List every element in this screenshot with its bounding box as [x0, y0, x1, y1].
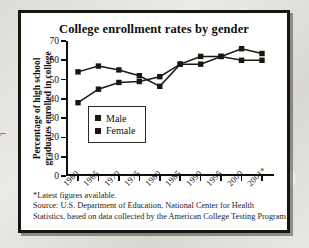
data-point-female [239, 46, 244, 51]
data-point-female [116, 67, 121, 72]
legend-item-male: Male [95, 113, 135, 124]
square-marker-icon [95, 115, 101, 121]
data-point-female [96, 63, 101, 68]
plot-area: 010203040506070 196019651970197519801985… [66, 41, 274, 176]
y-tick-label: 30 [50, 113, 60, 123]
data-point-female [157, 84, 162, 89]
series-line-male [78, 56, 262, 102]
y-tick-label: 0 [54, 171, 59, 181]
data-point-male [259, 58, 264, 63]
data-point-male [157, 74, 162, 79]
data-point-female [178, 61, 183, 66]
chart-footnotes: *Latest figures available. Source: U.S. … [33, 191, 281, 222]
chart-legend: Male Female [88, 106, 146, 143]
footnote-source-line-2: Statistics, based on data collected by t… [33, 212, 281, 222]
data-point-male [96, 87, 101, 92]
data-point-female [198, 54, 203, 59]
y-tick-label: 10 [50, 152, 60, 162]
square-marker-icon [95, 128, 101, 134]
data-point-female [75, 69, 80, 74]
footnote-source-line-1: Source: U.S. Department of Education, Na… [33, 201, 281, 211]
y-tick-label: 40 [50, 94, 60, 104]
data-point-female [137, 73, 142, 78]
chart-figure-frame: College enrollment rates by gender Perce… [18, 10, 290, 233]
y-tick-label: 70 [50, 36, 60, 46]
data-point-male [239, 58, 244, 63]
legend-label-male: Male [106, 113, 127, 124]
y-tick-label: 50 [50, 75, 60, 85]
data-point-female [259, 51, 264, 56]
legend-label-female: Female [106, 125, 135, 136]
y-axis-title-line-1: Percentage of high school [32, 58, 42, 160]
stray-scan-mark: ⌐ [0, 128, 8, 138]
y-axis-title-line-2: graduates enrolled in college [43, 51, 53, 165]
data-point-male [75, 100, 80, 105]
data-point-male [198, 61, 203, 66]
data-point-female [218, 54, 223, 59]
data-point-male [137, 79, 142, 84]
data-point-male [116, 80, 121, 85]
footnote-latest-figures: *Latest figures available. [33, 191, 281, 201]
series-line-female [78, 49, 262, 87]
y-tick-label: 60 [50, 55, 60, 65]
chart-title: College enrollment rates by gender [21, 22, 287, 37]
legend-item-female: Female [95, 125, 135, 136]
y-tick-label: 20 [50, 132, 60, 142]
